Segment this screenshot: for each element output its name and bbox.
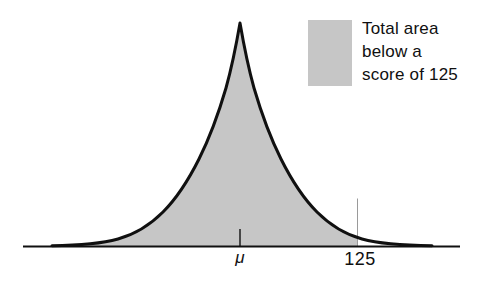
- score-125-axis-label: 125: [335, 249, 385, 270]
- mean-axis-label: μ: [225, 248, 255, 268]
- legend-text: Total area below a score of 125: [362, 17, 458, 86]
- legend-line-3: score of 125: [362, 63, 458, 86]
- legend: Total area below a score of 125: [308, 20, 458, 86]
- legend-line-2: below a: [362, 40, 458, 63]
- normal-distribution-figure: Total area below a score of 125 μ 125: [0, 0, 482, 284]
- legend-line-1: Total area: [362, 17, 458, 40]
- shaded-area-swatch: [308, 20, 352, 86]
